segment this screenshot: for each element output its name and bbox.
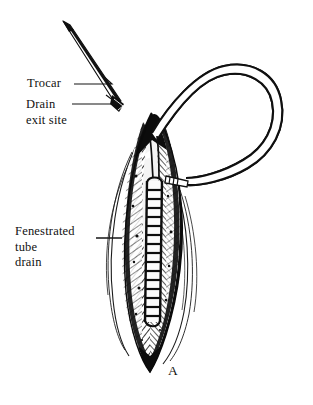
label-fenestrated-line-1: Fenestrated bbox=[15, 224, 75, 240]
label-trocar: Trocar bbox=[27, 76, 61, 92]
label-fenestrated-line-2: tube bbox=[15, 240, 75, 256]
figure-root: Trocar Drain exit site Fenestrated tube … bbox=[0, 0, 313, 405]
label-trocar-line-1: Trocar bbox=[27, 76, 61, 92]
label-drain-exit-line-1: Drain bbox=[26, 97, 67, 113]
label-fenestrated-line-3: drain bbox=[15, 255, 75, 271]
panel-letter: A bbox=[168, 363, 178, 379]
surgical-illustration bbox=[0, 0, 313, 405]
fenestrated-drain-tube bbox=[145, 178, 162, 327]
label-drain-exit-line-2: exit site bbox=[26, 113, 67, 129]
drain-fenestrations bbox=[145, 190, 162, 316]
label-drain-exit-site: Drain exit site bbox=[26, 97, 67, 128]
label-fenestrated-tube-drain: Fenestrated tube drain bbox=[15, 224, 75, 271]
